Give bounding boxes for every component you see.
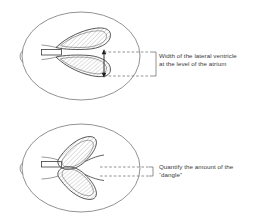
lateral-ventricle-lower-bottom (58, 167, 97, 200)
callout-dangle: Quantify the amount of the “dangle” (159, 163, 233, 179)
panel-bottom (20, 124, 153, 212)
ventricle-horn-upper-top (42, 45, 57, 48)
ventricle-horn-upper-bottom (42, 157, 59, 160)
head-outline-bottom (22, 124, 140, 212)
panel-top (20, 12, 156, 100)
third-ventricle-top (42, 50, 62, 56)
ventricle-diagram (0, 0, 258, 222)
callout-atrium-line1: Width of the lateral ventricle (159, 52, 237, 60)
callout-dangle-line1: Quantify the amount of the (159, 163, 233, 171)
ventricle-horn-lower-bottom (42, 176, 59, 179)
lateral-ventricle-upper-bottom (58, 137, 97, 170)
callout-atrium-line2: at the level of the atrium (159, 60, 237, 68)
callout-dangle-line2: “dangle” (159, 171, 233, 179)
callout-bracket-top (152, 52, 156, 76)
ventricle-horn-lower-top (42, 57, 57, 60)
figure-container: Width of the lateral ventricle at the le… (0, 0, 258, 222)
callout-atrium: Width of the lateral ventricle at the le… (159, 52, 237, 68)
callout-bracket-bottom (149, 167, 153, 176)
